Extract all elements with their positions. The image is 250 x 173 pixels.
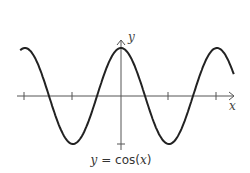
y-axis-label: y	[128, 30, 135, 44]
caption-x: x	[140, 153, 147, 167]
cosine-plot	[0, 0, 250, 173]
x-axis-label: x	[229, 99, 236, 113]
caption-close: )	[147, 153, 152, 167]
caption-eq: = cos(	[97, 153, 140, 167]
chart-caption: y = cos(x)	[0, 153, 242, 167]
chart: y x y = cos(x)	[0, 0, 250, 173]
